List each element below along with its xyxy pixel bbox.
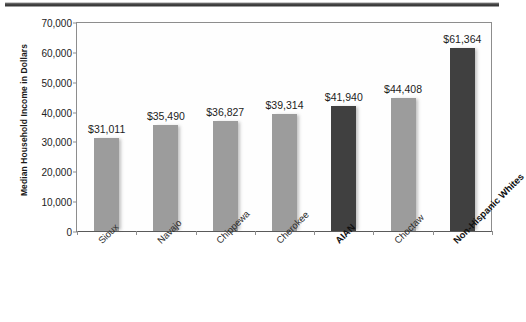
- y-tick-mark: [73, 142, 77, 143]
- y-tick-mark: [73, 52, 77, 53]
- x-tick-mark: [492, 231, 493, 235]
- x-tick-mark: [196, 231, 197, 235]
- x-tick-mark: [433, 231, 434, 235]
- bar-slot: $61,364: [450, 23, 475, 231]
- bar[interactable]: [153, 125, 178, 231]
- bar[interactable]: [391, 98, 416, 231]
- x-tick-mark: [373, 231, 374, 235]
- bar-slot: $36,827: [213, 23, 238, 231]
- bar[interactable]: [94, 138, 119, 231]
- bar-value-label: $31,011: [88, 123, 125, 135]
- bar-slot: $41,940: [331, 23, 356, 231]
- bar-slot: $31,011: [94, 23, 119, 231]
- y-tick-label: 40,000: [41, 107, 77, 118]
- x-tick-mark: [314, 231, 315, 235]
- bar-value-label: $39,314: [266, 99, 304, 111]
- bar-slot: $39,314: [272, 23, 297, 231]
- bar-value-label: $36,827: [206, 106, 244, 118]
- x-tick-mark: [77, 231, 78, 235]
- bar-slot: $35,490: [153, 23, 178, 231]
- y-tick-mark: [73, 172, 77, 173]
- bar-value-label: $35,490: [147, 110, 185, 122]
- bar[interactable]: [272, 114, 297, 231]
- y-tick-label: 50,000: [41, 77, 77, 88]
- y-tick-mark: [73, 82, 77, 83]
- bar[interactable]: [213, 121, 238, 231]
- bar-value-label: $41,940: [325, 91, 363, 103]
- y-axis-title: Median Household Income in Dollars: [19, 20, 29, 220]
- bar-slot: $44,408: [391, 23, 416, 231]
- y-tick-label: 10,000: [41, 197, 77, 208]
- bar-value-label: $61,364: [443, 33, 481, 45]
- y-tick-label: 20,000: [41, 167, 77, 178]
- y-tick-label: 70,000: [41, 18, 77, 29]
- x-tick-mark: [136, 231, 137, 235]
- y-tick-label: 30,000: [41, 137, 77, 148]
- bar-value-label: $44,408: [384, 83, 422, 95]
- bar[interactable]: [450, 48, 475, 231]
- plot-area: 70,00060,00050,00040,00030,00020,00010,0…: [76, 22, 492, 232]
- y-tick-mark: [73, 23, 77, 24]
- y-tick-mark: [73, 112, 77, 113]
- y-tick-label: 60,000: [41, 47, 77, 58]
- x-tick-mark: [255, 231, 256, 235]
- y-tick-mark: [73, 202, 77, 203]
- bar[interactable]: [331, 106, 356, 231]
